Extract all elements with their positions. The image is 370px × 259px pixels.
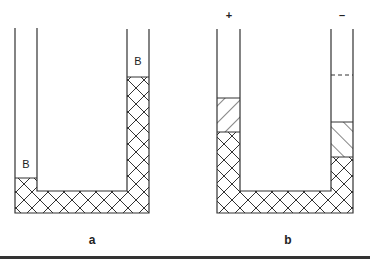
panel-a: B B a	[15, 28, 149, 247]
left-arm-layer-b	[217, 98, 240, 132]
left-arm-label-a: B	[22, 158, 29, 170]
panel-caption-a: a	[89, 233, 96, 247]
minus-electrode-label: –	[339, 9, 345, 21]
u-tube-diagram: B B a + – b	[0, 0, 370, 259]
fluid-crosshatch-a	[15, 77, 149, 213]
right-arm-label-a: B	[134, 55, 141, 67]
panel-b: + – b	[217, 9, 353, 247]
plus-electrode-label: +	[226, 9, 232, 21]
right-arm-layer-b	[331, 122, 353, 157]
panel-caption-b: b	[284, 233, 291, 247]
